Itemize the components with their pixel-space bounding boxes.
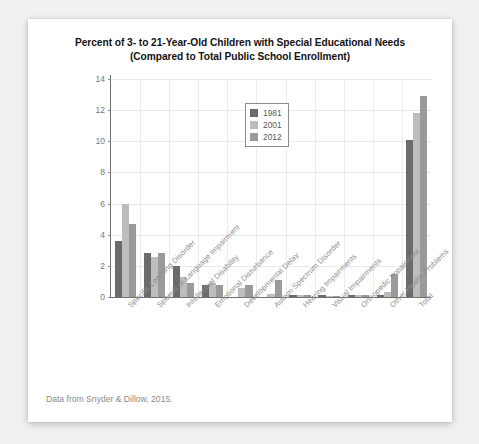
bar-2001-8 — [326, 296, 333, 297]
legend-swatch-icon — [250, 109, 258, 117]
legend-swatch-icon — [250, 121, 258, 129]
y-tick-label: 12 — [65, 105, 105, 115]
bar-2001-11 — [413, 113, 420, 297]
y-tick-label: 4 — [65, 230, 105, 240]
bar-2001-6 — [267, 294, 274, 297]
bar-2001-9 — [355, 295, 362, 297]
bar-2001-1 — [122, 204, 129, 297]
legend-swatch-icon — [250, 133, 258, 141]
legend-label: 1981 — [263, 108, 282, 118]
y-tick-label: 2 — [65, 261, 105, 271]
y-tick-label: 6 — [65, 199, 105, 209]
legend-label: 2001 — [263, 120, 282, 130]
bar-1981-11 — [406, 140, 413, 297]
y-tick-label: 14 — [65, 74, 105, 84]
chart-card: Percent of 3- to 21-Year-Old Children wi… — [28, 19, 452, 422]
bar-2001-10 — [384, 292, 391, 297]
bar-group — [111, 79, 140, 297]
chart-title-line-2: (Compared to Total Public School Enrollm… — [28, 50, 452, 64]
legend-label: 2012 — [263, 132, 282, 142]
legend-item-2001: 2001 — [250, 119, 282, 131]
chart-title: Percent of 3- to 21-Year-Old Children wi… — [28, 36, 452, 64]
bar-2001-7 — [297, 295, 304, 297]
bar-2012-1 — [129, 224, 136, 297]
chart-legend: 198120012012 — [245, 103, 289, 147]
legend-item-1981: 1981 — [250, 107, 282, 119]
y-tick-label: 10 — [65, 136, 105, 146]
y-tick-mark — [108, 297, 112, 298]
legend-item-2012: 2012 — [250, 131, 282, 143]
chart-title-line-1: Percent of 3- to 21-Year-Old Children wi… — [28, 36, 452, 50]
bar-1981-1 — [115, 241, 122, 297]
y-tick-label: 0 — [65, 292, 105, 302]
y-tick-label: 8 — [65, 167, 105, 177]
chart-source-caption: Data from Snyder & Dillow, 2015. — [46, 394, 173, 404]
